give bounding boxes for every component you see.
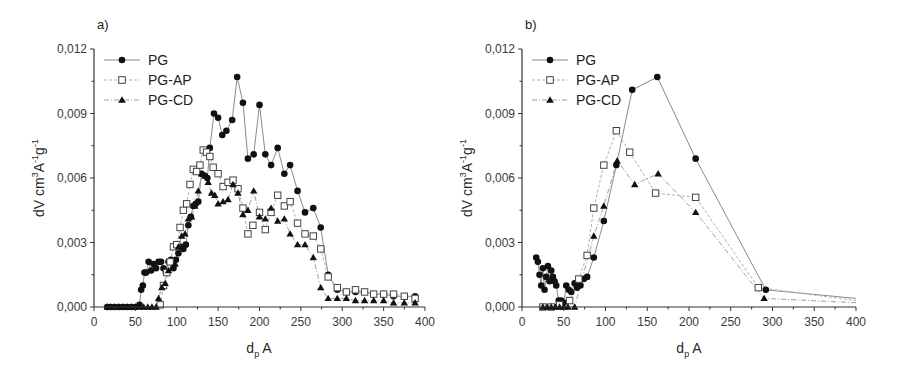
data-point: [183, 201, 189, 207]
x-tick-label: 400: [846, 315, 866, 329]
panel-a-label: a): [97, 17, 109, 32]
data-point: [180, 207, 186, 213]
data-point: [576, 276, 582, 282]
data-point: [158, 259, 165, 266]
data-point: [287, 198, 293, 204]
legend-label: PG-AP: [576, 72, 620, 88]
data-point: [274, 145, 281, 152]
x-tick-label: 300: [332, 315, 352, 329]
x-tick-label: 200: [249, 315, 269, 329]
x-tick-label: 250: [721, 315, 741, 329]
series-markers-pg: [104, 74, 418, 311]
legend-item-pg-ap: PG-AP: [104, 72, 192, 88]
data-point: [591, 205, 597, 211]
y-tick-label: 0,012: [485, 42, 515, 56]
legend-marker-icon: [547, 77, 554, 84]
series-line-pg-cd: [107, 174, 415, 307]
panel-b-x-axis-title: dp A: [676, 340, 702, 359]
data-point: [361, 289, 367, 295]
data-point: [568, 289, 575, 296]
data-point: [195, 198, 202, 205]
panel-b: b) 0501001502002503003504000,0000,0030,0…: [458, 17, 866, 359]
data-point: [652, 190, 658, 196]
data-point: [627, 149, 633, 155]
data-point: [601, 218, 608, 225]
data-point: [334, 284, 340, 290]
x-tick-label: 350: [374, 315, 394, 329]
data-point: [187, 181, 193, 187]
y-tick-label: 0,006: [485, 171, 515, 185]
data-point: [541, 287, 548, 294]
legend-marker-icon: [119, 77, 126, 84]
data-point: [195, 187, 202, 193]
data-point: [229, 117, 236, 124]
x-tick-label: 150: [637, 315, 657, 329]
x-tick-label: 100: [167, 315, 187, 329]
data-point: [755, 284, 761, 290]
panel-a-y-axis-title: dV cm3A-1g-1: [30, 139, 47, 217]
legend-label: PG: [148, 52, 168, 68]
x-tick-label: 400: [415, 315, 435, 329]
data-point: [584, 252, 590, 258]
data-point: [287, 162, 294, 169]
series-line-pg-ap: [543, 131, 856, 307]
data-point: [584, 274, 591, 281]
y-tick-label: 0,012: [57, 42, 87, 56]
series-markers-pg: [533, 74, 769, 306]
legend-item-pg-ap: PG-AP: [532, 72, 620, 88]
data-point: [654, 74, 661, 81]
data-point: [234, 74, 241, 81]
data-point: [553, 282, 560, 289]
data-point: [601, 162, 607, 168]
series-line-pg: [536, 77, 856, 303]
panel-b-legend: PGPG-APPG-CD: [532, 52, 621, 108]
y-tick-label: 0,006: [57, 171, 87, 185]
x-tick-label: 300: [762, 315, 782, 329]
data-point: [548, 267, 555, 274]
data-point: [281, 170, 288, 177]
y-tick-label: 0,003: [57, 236, 87, 250]
data-point: [317, 224, 324, 231]
data-point: [275, 192, 281, 198]
data-point: [197, 162, 203, 168]
x-tick-label: 0: [91, 315, 98, 329]
data-point: [613, 157, 620, 163]
data-point: [324, 295, 331, 301]
data-point: [692, 155, 699, 162]
data-point: [245, 231, 251, 237]
x-tick-label: 150: [208, 315, 228, 329]
data-point: [250, 222, 256, 228]
y-tick-label: 0,009: [57, 107, 87, 121]
data-point: [250, 151, 257, 158]
panel-a: a) 0501001502002503003504000,0000,0030,0…: [30, 17, 435, 359]
x-tick-label: 50: [129, 315, 143, 329]
data-point: [600, 202, 607, 208]
data-point: [294, 188, 301, 195]
data-point: [310, 254, 317, 260]
y-tick-label: 0,003: [485, 236, 515, 250]
data-point: [274, 217, 281, 223]
data-point: [390, 291, 396, 297]
panel-b-plot-area: [533, 74, 856, 311]
data-point: [535, 259, 542, 266]
legend-marker-icon: [547, 57, 554, 64]
data-point: [380, 291, 386, 297]
x-tick-label: 250: [291, 315, 311, 329]
data-point: [153, 265, 160, 272]
data-point: [268, 162, 275, 169]
legend-label: PG-AP: [148, 72, 192, 88]
data-point: [245, 155, 252, 162]
x-tick-label: 50: [557, 315, 571, 329]
data-point: [536, 271, 543, 278]
panel-a-x-axis-title: dp A: [246, 340, 272, 359]
data-point: [294, 220, 300, 226]
x-tick-label: 100: [595, 315, 615, 329]
data-point: [302, 209, 309, 216]
data-point: [380, 297, 387, 303]
legend-label: PG: [576, 52, 596, 68]
data-point: [763, 287, 770, 294]
data-point: [224, 196, 231, 202]
data-point: [286, 230, 293, 236]
y-tick-label: 0,000: [57, 300, 87, 314]
data-point: [692, 194, 698, 200]
